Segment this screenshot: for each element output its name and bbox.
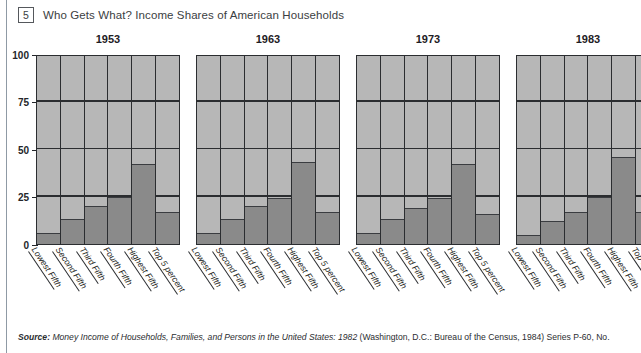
bar-column[interactable] xyxy=(245,56,269,244)
x-axis-labels: Lowest FifthSecond FifthThird FifthFourt… xyxy=(196,245,340,315)
y-axis-tick: 50 xyxy=(18,145,38,155)
y-axis-tick: 75 xyxy=(18,98,38,108)
bar-column[interactable] xyxy=(452,56,476,244)
bar[interactable] xyxy=(636,212,641,244)
bar-column[interactable] xyxy=(541,56,565,244)
y-axis-tick-label: 25 xyxy=(18,192,29,203)
bar-column[interactable] xyxy=(476,56,499,244)
bar[interactable] xyxy=(85,206,108,244)
page-title: Who Gets What? Income Shares of American… xyxy=(43,9,344,21)
y-axis-tick-label: 100 xyxy=(12,50,29,61)
bar[interactable] xyxy=(108,197,131,245)
figure-number-badge: 5 xyxy=(18,7,34,23)
x-axis-labels: Lowest FifthSecond FifthThird FifthFourt… xyxy=(516,245,641,315)
bar[interactable] xyxy=(381,219,404,244)
bar-column[interactable] xyxy=(61,56,85,244)
plot-region xyxy=(356,55,500,245)
plot-region xyxy=(36,55,180,245)
bar-column[interactable] xyxy=(588,56,612,244)
y-axis-tick-label: 0 xyxy=(23,240,29,251)
plot-region xyxy=(196,55,340,245)
bar[interactable] xyxy=(268,198,291,244)
bar[interactable] xyxy=(132,164,155,244)
bar[interactable] xyxy=(245,206,268,244)
bar-column[interactable] xyxy=(268,56,292,244)
bar[interactable] xyxy=(197,233,220,244)
bar[interactable] xyxy=(357,233,380,244)
bar-column[interactable] xyxy=(156,56,179,244)
source-note: Source: Money Income of Households, Fami… xyxy=(18,332,638,342)
bar[interactable] xyxy=(428,198,451,244)
bar[interactable] xyxy=(476,214,499,244)
y-axis-tick-label: 75 xyxy=(18,97,29,108)
source-label: Source: xyxy=(18,332,50,342)
panel-group: 1953Lowest FifthSecond FifthThird FifthF… xyxy=(36,33,641,318)
bar-column[interactable] xyxy=(357,56,381,244)
bar[interactable] xyxy=(517,235,540,245)
figure-header: 5 Who Gets What? Income Shares of Americ… xyxy=(18,7,344,23)
bar[interactable] xyxy=(405,208,428,244)
bar-column[interactable] xyxy=(428,56,452,244)
panel-year-label: 1983 xyxy=(516,33,641,45)
bar[interactable] xyxy=(565,212,588,244)
bar-column[interactable] xyxy=(612,56,636,244)
panel-year-label: 1963 xyxy=(196,33,340,45)
bar-column[interactable] xyxy=(221,56,245,244)
panel-year-label: 1973 xyxy=(356,33,500,45)
x-axis-labels: Lowest FifthSecond FifthThird FifthFourt… xyxy=(356,245,500,315)
bar-column[interactable] xyxy=(132,56,156,244)
figure-page: 5 Who Gets What? Income Shares of Americ… xyxy=(0,0,641,353)
bar[interactable] xyxy=(292,162,315,244)
bar[interactable] xyxy=(61,219,84,244)
bar[interactable] xyxy=(541,221,564,244)
bar-column[interactable] xyxy=(381,56,405,244)
bar-column[interactable] xyxy=(37,56,61,244)
bar-column[interactable] xyxy=(197,56,221,244)
bar-column[interactable] xyxy=(517,56,541,244)
source-rest: (Washington, D.C.: Bureau of the Census,… xyxy=(357,332,609,342)
bar-column[interactable] xyxy=(565,56,589,244)
x-axis-labels: Lowest FifthSecond FifthThird FifthFourt… xyxy=(36,245,180,315)
bar-column[interactable] xyxy=(108,56,132,244)
bar[interactable] xyxy=(612,157,635,244)
bar[interactable] xyxy=(221,219,244,244)
panel-year-label: 1953 xyxy=(36,33,180,45)
bar-column[interactable] xyxy=(292,56,316,244)
y-axis-tick-label: 50 xyxy=(18,145,29,156)
bar[interactable] xyxy=(452,164,475,244)
bar-column[interactable] xyxy=(316,56,339,244)
plot-region xyxy=(516,55,641,245)
bar-column[interactable] xyxy=(405,56,429,244)
y-axis: 0255075100 xyxy=(0,33,38,318)
bar[interactable] xyxy=(588,197,611,245)
source-title: Money Income of Households, Families, an… xyxy=(52,332,357,342)
bar[interactable] xyxy=(37,233,60,244)
bar-column[interactable] xyxy=(636,56,641,244)
bar[interactable] xyxy=(316,212,339,244)
chart-area: 0255075100 1953Lowest FifthSecond FifthT… xyxy=(0,33,641,318)
bar-column[interactable] xyxy=(85,56,109,244)
y-axis-tick: 100 xyxy=(12,50,38,60)
y-axis-tick: 25 xyxy=(18,193,38,203)
bar[interactable] xyxy=(156,212,179,244)
